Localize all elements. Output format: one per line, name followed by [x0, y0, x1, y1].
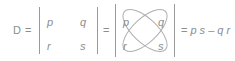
matrix-2-cell-s: s — [158, 41, 164, 52]
matrix-1-left-bar — [39, 7, 40, 54]
matrix-1-cell-r: r — [47, 41, 51, 52]
result-minus-operator: – — [208, 24, 214, 36]
matrix-1-cell-s: s — [80, 41, 86, 52]
result-term-ps: p s — [190, 24, 205, 36]
result-equals: = — [181, 24, 187, 36]
matrix-2-cell-p: p — [123, 17, 129, 28]
matrix-2-right-bar — [174, 4, 175, 57]
matrix-2-cell-r: r — [123, 41, 127, 52]
matrix-2-cell-q: q — [158, 17, 164, 28]
result-term-qr: q r — [217, 24, 230, 36]
determinant-figure: D = p q r s = p q r s =p s–q r — [0, 0, 235, 61]
matrix-1-cell-q: q — [80, 17, 86, 28]
determinant-label: D — [13, 25, 21, 36]
equals-sign-first: = — [25, 25, 31, 36]
matrix-1-right-bar — [97, 7, 98, 54]
equals-sign-middle: = — [103, 25, 109, 36]
result-expression: =p s–q r — [181, 25, 230, 36]
matrix-1-cell-p: p — [47, 17, 53, 28]
